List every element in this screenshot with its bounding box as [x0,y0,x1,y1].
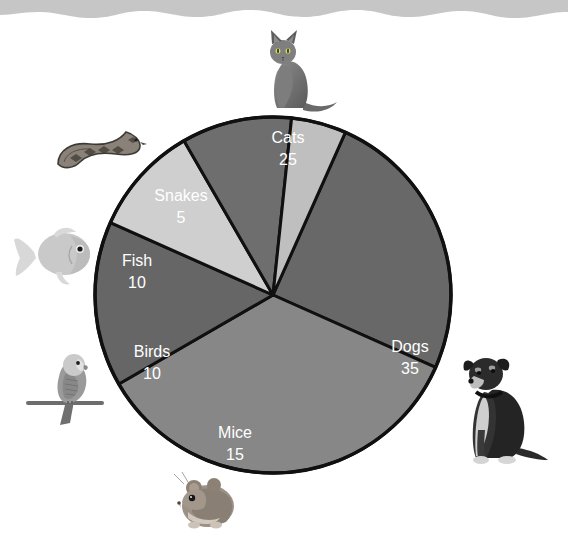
pie-slice-label-fish: Fish [122,252,152,269]
dog-photo [452,344,552,474]
fish-photo [12,218,104,290]
pie-slice-label-snakes: Snakes [154,187,207,204]
fish-icon [12,218,104,290]
pie-slice-label-birds: Birds [134,343,170,360]
pie-slice-label-cats: Cats [272,129,305,146]
mouse-icon [158,468,250,540]
pie-slice-label-mice: Mice [218,424,252,441]
bird-icon [22,343,114,428]
dog-icon [452,344,552,474]
cat-photo [245,22,340,117]
pie-slice-value-cats: 25 [279,151,297,168]
pie-chart-infographic: Cats25Dogs35Mice15Birds10Fish10Snakes5 [0,0,568,545]
pie-slice-value-dogs: 35 [401,360,419,377]
pie-slice-value-birds: 10 [143,365,161,382]
pie-slice-value-fish: 10 [128,274,146,291]
mouse-photo [158,468,250,540]
bird-photo [22,343,114,428]
pie-slice-label-dogs: Dogs [391,338,428,355]
cat-icon [245,22,340,117]
pie-slice-value-mice: 15 [226,446,244,463]
snake-photo [50,120,150,180]
pie-slice-value-snakes: 5 [177,209,186,226]
snake-icon [50,120,150,180]
